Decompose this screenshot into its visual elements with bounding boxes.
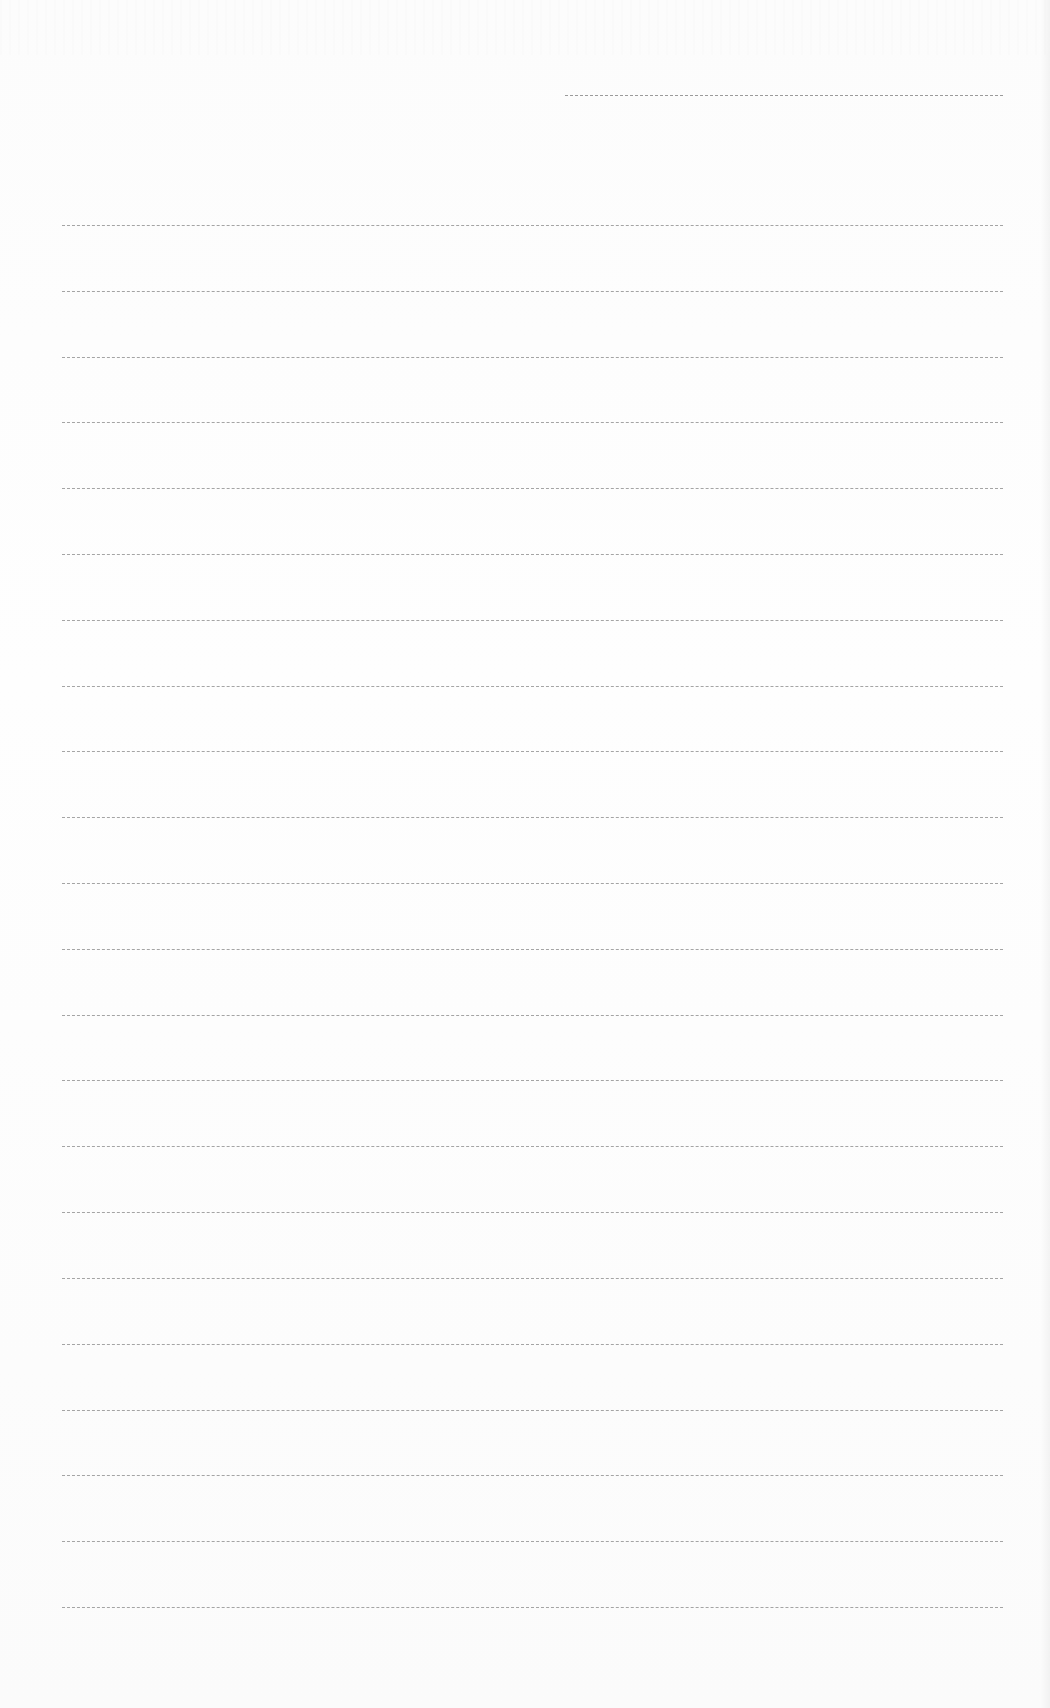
ruled-line — [62, 949, 1003, 951]
header-signature-line — [565, 95, 1003, 97]
ruled-line — [62, 1015, 1003, 1017]
ruled-line — [62, 817, 1003, 819]
ruled-line — [62, 620, 1003, 622]
ruled-line — [62, 686, 1003, 688]
page-edge-shadow — [1040, 0, 1050, 1708]
ruled-line — [62, 1475, 1003, 1477]
ruled-line — [62, 883, 1003, 885]
ruled-line — [62, 1410, 1003, 1412]
ruled-line — [62, 488, 1003, 490]
ruled-line — [62, 422, 1003, 424]
ruled-line — [62, 1607, 1003, 1609]
ruled-line — [62, 1344, 1003, 1346]
ruled-line — [62, 1278, 1003, 1280]
ruled-line — [62, 1080, 1003, 1082]
ruled-line — [62, 291, 1003, 293]
ruled-line — [62, 751, 1003, 753]
ruled-line — [62, 1212, 1003, 1214]
ruled-line — [62, 1541, 1003, 1543]
ruled-line — [62, 357, 1003, 359]
ruled-line — [62, 225, 1003, 227]
ruled-line — [62, 554, 1003, 556]
ruled-page — [0, 0, 1050, 1708]
bleed-through-text — [0, 0, 1050, 55]
ruled-line — [62, 1146, 1003, 1148]
